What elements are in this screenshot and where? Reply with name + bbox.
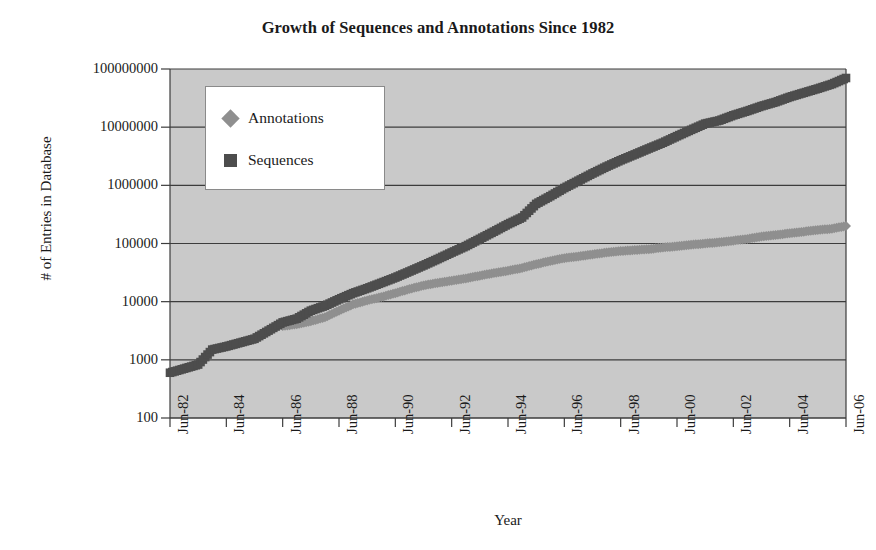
x-axis-label: Year bbox=[170, 512, 846, 529]
x-axis-tick-label: Jun-96 bbox=[570, 395, 585, 434]
x-axis-tick-label: Jun-94 bbox=[514, 395, 529, 434]
x-axis-tick-label: Jun-82 bbox=[176, 395, 191, 434]
legend-item-sequences: Sequences bbox=[224, 149, 313, 171]
annotations-marker-icon bbox=[221, 109, 239, 127]
chart-figure: Growth of Sequences and Annotations Sinc… bbox=[0, 0, 876, 550]
chart-legend: Annotations Sequences bbox=[205, 86, 385, 190]
legend-label-sequences: Sequences bbox=[248, 151, 313, 169]
data-point-square bbox=[842, 74, 851, 83]
x-axis-tick-label: Jun-90 bbox=[401, 395, 416, 434]
sequences-marker-icon bbox=[224, 154, 237, 167]
plot-area bbox=[0, 0, 876, 550]
x-axis-tick-label: Jun-92 bbox=[458, 395, 473, 434]
x-axis-tick-label: Jun-06 bbox=[852, 395, 867, 434]
x-axis-tick-label: Jun-02 bbox=[739, 395, 754, 434]
x-axis-tick-label: Jun-86 bbox=[289, 395, 304, 434]
x-axis-tick-label: Jun-00 bbox=[683, 395, 698, 434]
legend-item-annotations: Annotations bbox=[224, 107, 324, 129]
x-axis-tick-label: Jun-98 bbox=[627, 395, 642, 434]
x-axis-tick-label: Jun-88 bbox=[345, 395, 360, 434]
x-axis-tick-label: Jun-84 bbox=[232, 395, 247, 434]
legend-label-annotations: Annotations bbox=[248, 109, 324, 127]
x-axis-tick-label: Jun-04 bbox=[796, 395, 811, 434]
